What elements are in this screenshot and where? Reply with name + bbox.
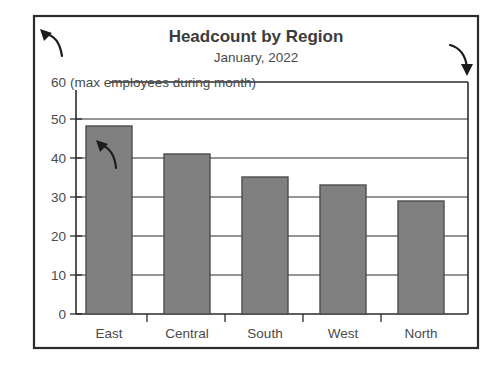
bar-central[interactable]	[164, 154, 210, 314]
ytick-label-0: 0	[58, 307, 66, 322]
chart-figure: Headcount by Region January, 2022 60 (ma…	[0, 0, 496, 373]
chart-title: Headcount by Region	[169, 27, 344, 46]
ytick-label-10: 10	[51, 268, 66, 283]
bar-chart: Headcount by Region January, 2022 60 (ma…	[0, 0, 496, 373]
xtick-label-west: West	[328, 326, 359, 341]
bar-east[interactable]	[86, 126, 132, 314]
ytick-label-50: 50	[51, 112, 66, 127]
bar-north[interactable]	[398, 201, 444, 314]
chart-subtitle: January, 2022	[214, 50, 299, 65]
xtick-label-central: Central	[165, 326, 209, 341]
xtick-label-east: East	[95, 326, 122, 341]
axis-note: (max employees during month)	[70, 75, 256, 90]
bar-south[interactable]	[242, 177, 288, 314]
bar-west[interactable]	[320, 185, 366, 314]
ytick-label-60: 60	[51, 75, 66, 90]
ytick-label-30: 30	[51, 190, 66, 205]
ytick-label-40: 40	[51, 151, 66, 166]
xtick-label-north: North	[404, 326, 437, 341]
xtick-label-south: South	[247, 326, 282, 341]
ytick-label-20: 20	[51, 229, 66, 244]
